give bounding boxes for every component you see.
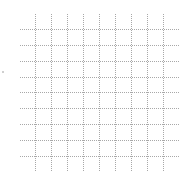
axis-tick-mark [2,71,4,73]
plot-grid [0,0,190,180]
